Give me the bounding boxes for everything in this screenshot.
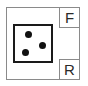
dot-1 xyxy=(25,31,32,38)
rear-label-box: R xyxy=(59,59,80,80)
front-label-box: F xyxy=(59,7,80,28)
front-label: F xyxy=(65,10,74,25)
dot-2 xyxy=(39,42,46,49)
dot-3 xyxy=(22,49,29,56)
rear-label: R xyxy=(64,62,75,77)
component-box xyxy=(13,24,53,63)
